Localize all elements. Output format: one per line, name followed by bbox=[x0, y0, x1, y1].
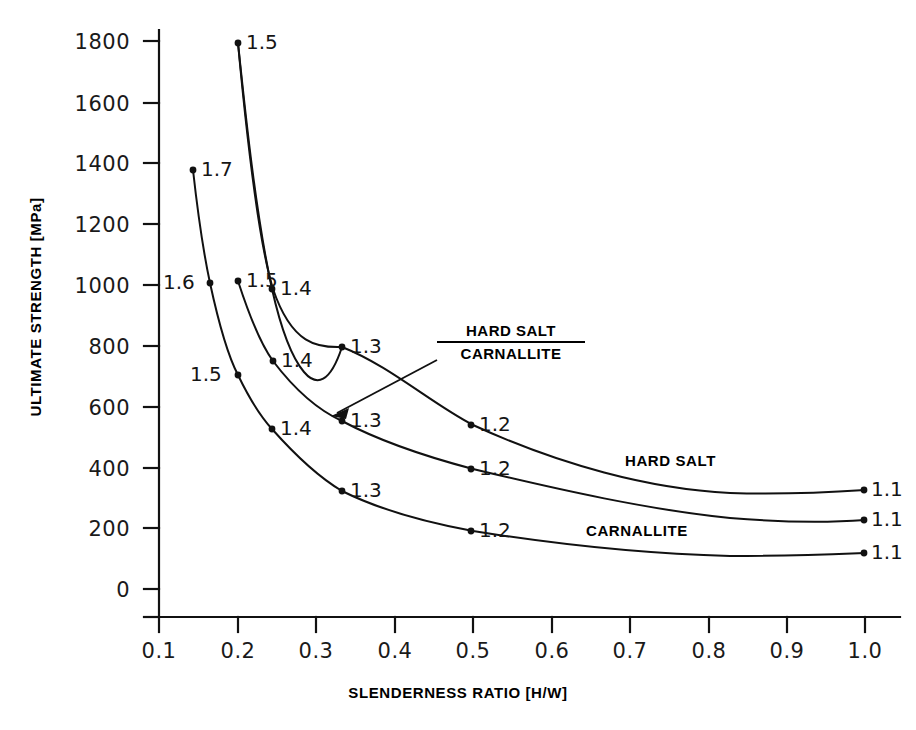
y-tick-label-400: 400 bbox=[20, 457, 130, 481]
point-label-hardsalt-1: 1.5 bbox=[246, 30, 278, 54]
point-label-mixed-4: 1.2 bbox=[479, 456, 511, 480]
chart-figure: 1800 1600 1400 1200 1000 800 600 400 200… bbox=[0, 0, 916, 730]
point-label-mixed-3: 1.3 bbox=[350, 408, 382, 432]
data-point bbox=[468, 466, 475, 473]
point-label-carnallite-5: 1.3 bbox=[350, 478, 382, 502]
point-label-carnallite-3: 1.5 bbox=[190, 362, 222, 386]
curve-label-carnallite: CARNALLITE bbox=[586, 522, 688, 539]
data-point bbox=[269, 426, 276, 433]
data-point bbox=[235, 278, 242, 285]
point-label-carnallite-7: 1.1 bbox=[871, 540, 903, 564]
curve-label-hard-salt: HARD SALT bbox=[625, 452, 716, 469]
x-tick-label-0-1: 0.1 bbox=[129, 639, 189, 663]
x-tick-label-0-9: 0.9 bbox=[757, 639, 817, 663]
x-tick-label-0-7: 0.7 bbox=[600, 639, 660, 663]
y-tick-label-1800: 1800 bbox=[20, 30, 130, 54]
x-axis-title: SLENDERNESS RATIO [H/W] bbox=[0, 684, 916, 701]
curve-hard-salt-path bbox=[238, 43, 865, 494]
data-point bbox=[207, 280, 214, 287]
point-label-hardsalt-3: 1.3 bbox=[350, 334, 382, 358]
data-point bbox=[339, 344, 346, 351]
x-tick-label-0-3: 0.3 bbox=[286, 639, 346, 663]
y-axis-title: ULTIMATE STRENGTH [MPa] bbox=[27, 197, 44, 416]
point-label-carnallite-1: 1.7 bbox=[201, 157, 233, 181]
data-point bbox=[235, 40, 242, 47]
point-label-carnallite-6: 1.2 bbox=[479, 518, 511, 542]
data-point bbox=[861, 550, 868, 557]
point-label-carnallite-2: 1.6 bbox=[163, 270, 195, 294]
y-tick-label-1600: 1600 bbox=[20, 92, 130, 116]
data-point bbox=[468, 422, 475, 429]
x-tick-marks bbox=[159, 617, 865, 632]
point-label-mixed-5: 1.1 bbox=[871, 507, 903, 531]
plot-canvas bbox=[0, 0, 916, 730]
annotation-arrow bbox=[337, 360, 437, 413]
x-tick-label-0-2: 0.2 bbox=[208, 639, 268, 663]
y-tick-marks bbox=[144, 41, 159, 617]
x-tick-label-0-4: 0.4 bbox=[365, 639, 425, 663]
x-tick-label-0-6: 0.6 bbox=[522, 639, 582, 663]
point-label-mixed-1: 1.5 bbox=[246, 268, 278, 292]
point-label-hardsalt-4: 1.2 bbox=[479, 412, 511, 436]
point-label-hardsalt-5: 1.1 bbox=[871, 477, 903, 501]
point-label-mixed-2: 1.4 bbox=[281, 348, 313, 372]
point-label-carnallite-4: 1.4 bbox=[280, 416, 312, 440]
data-point bbox=[861, 487, 868, 494]
y-tick-label-0: 0 bbox=[20, 578, 130, 602]
annotation-hard-salt-over-carnallite: HARD SALT CARNALLITE bbox=[437, 321, 585, 363]
curve-hard-salt bbox=[238, 43, 342, 380]
y-tick-label-200: 200 bbox=[20, 517, 130, 541]
data-point bbox=[235, 372, 242, 379]
data-point bbox=[339, 488, 346, 495]
data-point bbox=[270, 358, 277, 365]
x-tick-label-0-5: 0.5 bbox=[443, 639, 503, 663]
data-point bbox=[861, 517, 868, 524]
y-tick-label-1400: 1400 bbox=[20, 152, 130, 176]
y-axis-title-wrapper: ULTIMATE STRENGTH [MPa] bbox=[27, 187, 45, 427]
point-label-hardsalt-2: 1.4 bbox=[280, 276, 312, 300]
data-point bbox=[190, 167, 197, 174]
annotation-numerator: HARD SALT bbox=[437, 321, 585, 343]
x-tick-label-0-8: 0.8 bbox=[679, 639, 739, 663]
annotation-denominator: CARNALLITE bbox=[437, 343, 585, 363]
data-point bbox=[468, 528, 475, 535]
x-tick-label-1-0: 1.0 bbox=[835, 639, 895, 663]
